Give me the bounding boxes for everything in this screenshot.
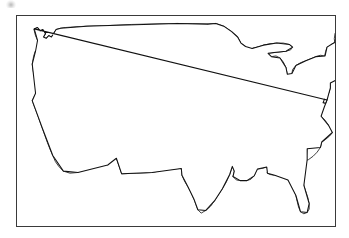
scan-speck-artifact xyxy=(6,0,16,8)
us-national-outline xyxy=(32,23,335,212)
us-states-map[interactable] xyxy=(17,16,335,226)
map-frame-border xyxy=(16,15,336,227)
figure-root: Black-and-white outline map of the conti… xyxy=(0,0,349,238)
